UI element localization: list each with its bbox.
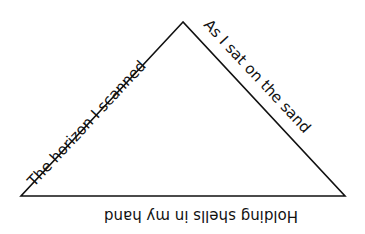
poem-line-right: As I sat on the sand <box>200 16 314 137</box>
triangle-poem: The horizon I scanned As I sat on the sa… <box>0 0 365 234</box>
poem-line-left: The horizon I scanned <box>23 57 150 191</box>
poem-line-bottom: Holding shells in my hand <box>104 207 298 225</box>
